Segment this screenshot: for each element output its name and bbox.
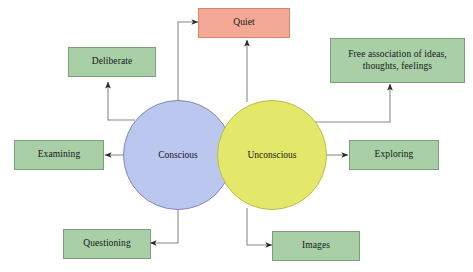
node-box-free-association-label: Free association of ideas, thoughts, fee… (348, 49, 447, 73)
node-box-deliberate-label: Deliberate (92, 56, 133, 68)
diagram-canvas: Conscious Unconscious Quiet Deliberate F… (0, 0, 473, 272)
free-association-line-1: Free association of ideas, (348, 49, 447, 61)
node-box-quiet[interactable]: Quiet (198, 8, 290, 38)
node-box-images-label: Images (302, 240, 330, 252)
node-box-images[interactable]: Images (272, 231, 360, 261)
connector-unconscious-to-free-association (308, 84, 390, 122)
connector-conscious-to-quiet (178, 22, 198, 100)
node-box-exploring-label: Exploring (375, 149, 414, 161)
circle-unconscious[interactable]: Unconscious (217, 100, 327, 210)
node-box-free-association[interactable]: Free association of ideas, thoughts, fee… (330, 38, 465, 83)
node-box-examining-label: Examining (38, 149, 81, 161)
node-box-exploring[interactable]: Exploring (349, 140, 439, 170)
connector-conscious-to-questioning (150, 210, 178, 243)
circle-unconscious-label: Unconscious (247, 150, 296, 160)
node-box-examining[interactable]: Examining (14, 140, 104, 170)
free-association-line-2: thoughts, feelings (348, 61, 447, 73)
circle-conscious-label: Conscious (158, 150, 198, 160)
node-box-deliberate[interactable]: Deliberate (68, 47, 156, 77)
node-box-questioning[interactable]: Questioning (63, 229, 151, 259)
connector-conscious-to-deliberate (108, 82, 135, 120)
node-box-quiet-label: Quiet (233, 17, 255, 29)
node-box-questioning-label: Questioning (83, 238, 131, 250)
connector-unconscious-to-images (247, 208, 272, 245)
